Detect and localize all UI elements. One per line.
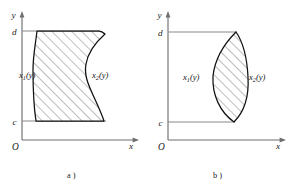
x-axis-arrowhead	[280, 138, 286, 143]
panel-b-origin-label: O	[158, 142, 165, 152]
panel-b-tick-label-d: d	[158, 28, 163, 38]
x-axis-arrowhead	[133, 138, 139, 143]
panel-b-x-axis	[168, 138, 286, 143]
figure-container: y x O d c x1(y) x2(y) a )	[0, 0, 295, 188]
panel-a-caption: a )	[67, 171, 76, 180]
panel-b: y x O d c x1(y) x2(y) b )	[157, 10, 287, 180]
panel-a-x-axis-label: x	[128, 141, 134, 151]
panel-b-tick-label-c: c	[159, 118, 163, 128]
panel-b-right-curve-label: x2(y)	[248, 72, 266, 83]
panel-a-tick-label-d: d	[12, 27, 17, 37]
panel-b-region	[208, 27, 254, 127]
y-axis-arrowhead	[166, 11, 171, 17]
panel-a-tick-label-c: c	[13, 117, 17, 127]
y-axis-arrowhead	[20, 11, 25, 17]
panel-a: y x O d c x1(y) x2(y) a )	[11, 10, 140, 180]
panel-a-left-curve-label-arg: (y)	[26, 70, 36, 80]
panel-b-y-axis	[166, 11, 171, 140]
panel-a-x-axis	[22, 138, 139, 143]
panel-b-x-axis-label: x	[275, 141, 281, 151]
panel-b-left-curve-label: x1(y)	[182, 72, 200, 83]
panel-a-right-curve-label: x2(y)	[91, 70, 109, 81]
panel-a-origin-label: O	[12, 142, 19, 152]
panel-b-left-curve-label-arg: (y)	[190, 72, 200, 82]
panel-a-right-curve-label-arg: (y)	[99, 70, 109, 80]
panel-b-right-curve-label-arg: (y)	[256, 72, 266, 82]
panel-a-left-curve-label: x1(y)	[18, 70, 36, 81]
panel-b-caption: b )	[213, 171, 222, 180]
figure-svg: y x O d c x1(y) x2(y) a )	[0, 0, 295, 188]
panel-a-y-axis-label: y	[11, 10, 17, 20]
panel-b-y-axis-label: y	[157, 10, 163, 20]
